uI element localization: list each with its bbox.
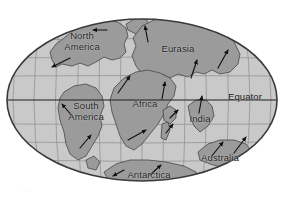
caption-remnant: ⸱⸱ ⸱ xyxy=(22,186,30,195)
landmass-eurasia xyxy=(132,17,240,78)
continental-drift-map-figure: North America Eurasia Africa South Ameri… xyxy=(0,0,285,199)
world-map-graphic xyxy=(0,0,285,199)
